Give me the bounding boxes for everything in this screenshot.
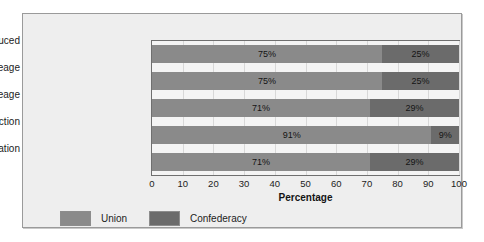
bar-value-label: 75% <box>152 45 382 63</box>
bar-segment-confederacy[interactable]: 9% <box>431 126 459 144</box>
x-tick-label: 60 <box>331 178 342 189</box>
x-tick-label: 0 <box>149 178 154 189</box>
x-tick-label: 90 <box>423 178 434 189</box>
plot-inner: 75%25%75%25%71%29%91%9%71%29% <box>152 41 459 175</box>
bar-row[interactable]: 71%29% <box>152 153 459 171</box>
category-label: Total Population <box>0 143 20 154</box>
bar-value-label: 75% <box>152 72 382 90</box>
chart-screenshot: Wealth ProducedFarm AcreageRailroad Mile… <box>0 0 484 242</box>
bar-segment-union[interactable]: 71% <box>152 153 370 171</box>
legend-item[interactable]: Confederacy <box>149 209 247 227</box>
category-label: Railroad Mileage <box>0 89 20 100</box>
bar-segment-union[interactable]: 75% <box>152 45 382 63</box>
legend-label: Union <box>101 213 127 224</box>
x-axis-ticks: 0102030405060708090100 <box>151 178 460 191</box>
bar-value-label: 71% <box>152 153 370 171</box>
legend-label: Confederacy <box>190 213 247 224</box>
bar-row[interactable]: 75%25% <box>152 72 459 90</box>
bar-row[interactable]: 71%29% <box>152 99 459 117</box>
bar-value-label: 25% <box>382 72 459 90</box>
category-label: Factory Production <box>0 116 20 127</box>
legend-swatch <box>60 211 91 226</box>
bar-value-label: 71% <box>152 99 370 117</box>
bar-segment-confederacy[interactable]: 25% <box>382 45 459 63</box>
chart-panel: Wealth ProducedFarm AcreageRailroad Mile… <box>22 13 462 228</box>
x-tick-label: 30 <box>239 178 250 189</box>
x-tick-label: 20 <box>208 178 219 189</box>
x-tick-label: 50 <box>300 178 311 189</box>
x-tick-label: 100 <box>451 178 467 189</box>
legend-swatch <box>149 211 180 226</box>
bar-segment-union[interactable]: 91% <box>152 126 431 144</box>
bar-segment-confederacy[interactable]: 29% <box>370 99 459 117</box>
bar-segment-confederacy[interactable]: 29% <box>370 153 459 171</box>
bar-value-label: 29% <box>370 153 459 171</box>
bar-segment-confederacy[interactable]: 25% <box>382 72 459 90</box>
x-tick-label: 80 <box>392 178 403 189</box>
bar-value-label: 29% <box>370 99 459 117</box>
category-label: Farm Acreage <box>0 62 20 73</box>
legend-item[interactable]: Union <box>60 209 127 227</box>
bar-segment-union[interactable]: 75% <box>152 72 382 90</box>
bar-value-label: 9% <box>431 126 459 144</box>
gridline <box>459 41 460 175</box>
bar-segment-union[interactable]: 71% <box>152 99 370 117</box>
bar-row[interactable]: 91%9% <box>152 126 459 144</box>
bar-row[interactable]: 75%25% <box>152 45 459 63</box>
x-axis-title: Percentage <box>151 192 460 203</box>
x-tick-label: 70 <box>362 178 373 189</box>
x-tick-label: 40 <box>270 178 281 189</box>
bar-value-label: 91% <box>152 126 431 144</box>
plot-area: 75%25%75%25%71%29%91%9%71%29% <box>151 40 460 176</box>
bar-value-label: 25% <box>382 45 459 63</box>
x-tick-label: 10 <box>177 178 188 189</box>
category-label: Wealth Produced <box>0 35 20 46</box>
